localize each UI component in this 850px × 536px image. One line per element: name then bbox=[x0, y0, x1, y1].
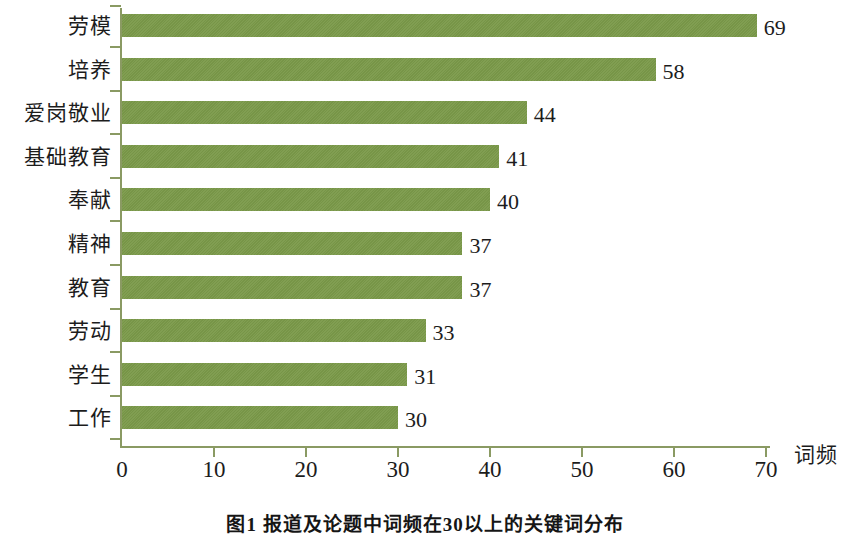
bar bbox=[122, 406, 398, 429]
bar-value-label: 37 bbox=[469, 235, 491, 257]
bar bbox=[122, 276, 462, 299]
bar-value-label: 40 bbox=[497, 191, 519, 213]
bar bbox=[122, 188, 490, 211]
bar-value-label: 44 bbox=[534, 104, 556, 126]
y-axis-tick bbox=[110, 351, 121, 353]
bar-value-label: 37 bbox=[469, 279, 491, 301]
bar bbox=[122, 58, 656, 81]
x-axis-tick bbox=[489, 448, 491, 457]
x-axis-tick bbox=[673, 448, 675, 457]
bar bbox=[122, 101, 527, 124]
x-axis-tick bbox=[765, 448, 767, 457]
bar bbox=[122, 14, 757, 37]
x-axis-title: 词频 bbox=[794, 438, 838, 468]
y-axis-tick bbox=[110, 177, 121, 179]
y-axis-tick bbox=[110, 264, 121, 266]
category-label: 精神 bbox=[68, 234, 112, 255]
x-axis-tick bbox=[581, 448, 583, 457]
y-axis-tick bbox=[110, 395, 121, 397]
y-axis-tick bbox=[110, 220, 121, 222]
bar-value-label: 41 bbox=[506, 148, 528, 170]
category-label: 工作 bbox=[68, 408, 112, 429]
category-label: 爱岗敬业 bbox=[24, 103, 112, 124]
y-axis-tick bbox=[110, 438, 121, 440]
y-axis-tick bbox=[110, 308, 121, 310]
y-axis-tick bbox=[110, 133, 121, 135]
x-axis-tick-label: 40 bbox=[460, 458, 520, 481]
x-axis-tick-label: 30 bbox=[368, 458, 428, 481]
x-axis-tick-label: 20 bbox=[276, 458, 336, 481]
bar bbox=[122, 363, 407, 386]
x-axis-tick-label: 10 bbox=[184, 458, 244, 481]
x-axis-tick-label: 60 bbox=[644, 458, 704, 481]
y-axis-tick bbox=[110, 5, 121, 7]
category-label: 劳模 bbox=[68, 16, 112, 37]
category-label: 教育 bbox=[68, 278, 112, 299]
category-label: 劳动 bbox=[68, 321, 112, 342]
figure-caption: 图1 报道及论题中词频在30以上的关键词分布 bbox=[0, 509, 850, 536]
bar-value-label: 31 bbox=[414, 366, 436, 388]
y-axis-tick bbox=[110, 90, 121, 92]
bar-value-label: 33 bbox=[433, 322, 455, 344]
category-label: 学生 bbox=[68, 365, 112, 386]
x-axis-tick-label: 70 bbox=[736, 458, 796, 481]
x-axis-tick-label: 50 bbox=[552, 458, 612, 481]
bar-value-label: 58 bbox=[663, 61, 685, 83]
bar-value-label: 30 bbox=[405, 409, 427, 431]
x-axis-tick bbox=[397, 448, 399, 457]
x-axis-tick bbox=[213, 448, 215, 457]
bar bbox=[122, 319, 426, 342]
bar bbox=[122, 145, 499, 168]
category-label: 培养 bbox=[68, 60, 112, 81]
x-axis-tick bbox=[305, 448, 307, 457]
category-label: 奉献 bbox=[68, 190, 112, 211]
category-label: 基础教育 bbox=[24, 147, 112, 168]
bar bbox=[122, 232, 462, 255]
y-axis-tick bbox=[110, 46, 121, 48]
bar-value-label: 69 bbox=[764, 17, 786, 39]
x-axis-tick-label: 0 bbox=[92, 458, 152, 481]
